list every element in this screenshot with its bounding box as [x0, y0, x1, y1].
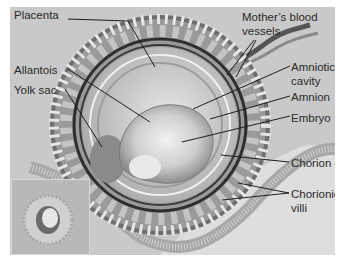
- label-amniotic-cavity: Amniotic cavity: [291, 60, 335, 88]
- label-yolk-sac: Yolk sac: [14, 83, 56, 97]
- label-mothers-blood-vessels: Mother’s blood vessels: [242, 10, 318, 38]
- label-placenta: Placenta: [14, 8, 59, 22]
- label-amnion: Amnion: [291, 90, 330, 104]
- diagram-figure: Placenta Mother’s blood vessels Allantoi…: [10, 7, 335, 255]
- label-chorion: Chorion: [291, 156, 331, 170]
- label-allantois: Allantois: [14, 63, 57, 77]
- label-chorionic-villi: Chorionic villi: [291, 187, 335, 215]
- label-embryo: Embryo: [291, 111, 331, 125]
- embryo-head: [129, 155, 161, 179]
- inset-illustration: [12, 180, 89, 254]
- inset-embryo-thumbnail: [11, 179, 90, 255]
